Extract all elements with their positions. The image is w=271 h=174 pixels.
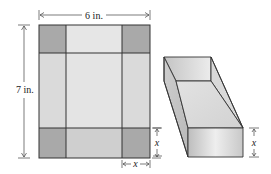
left-flap <box>39 53 66 128</box>
corner-square-tl <box>39 25 66 53</box>
bottom-flap <box>66 128 122 158</box>
right-flap <box>122 53 150 128</box>
width-label: 6 in. <box>85 10 103 21</box>
corner-width-label: x <box>132 158 138 169</box>
height-label: 7 in. <box>16 84 34 95</box>
corner-height-label: x <box>154 137 160 148</box>
box-height-label: x <box>251 137 257 148</box>
flat-sheet <box>39 25 150 158</box>
open-box <box>164 57 243 157</box>
box-front-wall <box>188 128 243 157</box>
box-floor <box>176 81 243 128</box>
box-net-diagram: 6 in. 7 in. x x <box>0 0 271 174</box>
corner-square-br <box>122 128 150 158</box>
top-flap <box>66 25 122 53</box>
base-panel <box>66 53 122 128</box>
corner-square-tr <box>122 25 150 53</box>
diagram: 6 in. 7 in. x x <box>0 0 271 174</box>
corner-square-bl <box>39 128 66 158</box>
